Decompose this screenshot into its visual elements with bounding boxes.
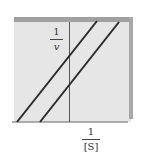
y-axis-label: 1 v [50, 27, 63, 52]
y-label-denominator: v [50, 42, 63, 52]
x-label-numerator: 1 [82, 127, 100, 137]
panel-top-border [14, 17, 133, 22]
lineweaver-burk-plot [0, 0, 143, 157]
x-axis-label: 1 [S] [82, 127, 100, 152]
panel-right-border [129, 17, 133, 119]
fraction-bar [82, 139, 100, 140]
fraction-bar [50, 39, 63, 40]
x-label-denominator: [S] [82, 142, 100, 152]
y-label-numerator: 1 [50, 27, 63, 37]
plot-panel [14, 18, 131, 122]
